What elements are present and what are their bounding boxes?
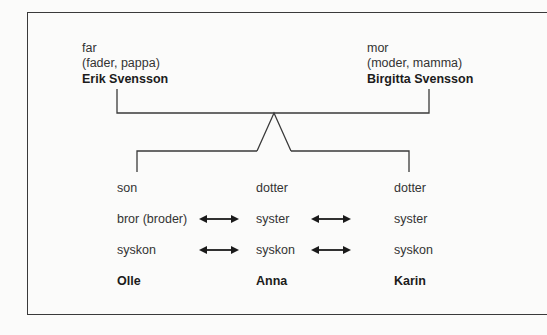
father-role: far	[82, 40, 97, 56]
mother-role: mor	[367, 40, 389, 56]
double-arrow-icon-4	[311, 246, 351, 254]
children-bracket	[137, 151, 257, 172]
children-bracket-right	[291, 151, 409, 172]
descent-connector	[257, 113, 291, 151]
child-1-collective: syskon	[117, 242, 156, 258]
child-2-collective: syskon	[256, 242, 295, 258]
child-2-sibling-term: syster	[256, 211, 289, 227]
child-1-name: Olle	[117, 273, 141, 289]
child-3-sibling-term: syster	[394, 211, 427, 227]
child-2-role: dotter	[256, 180, 288, 196]
child-3-role: dotter	[394, 180, 426, 196]
child-1-sibling-term: bror (broder)	[117, 211, 187, 227]
child-1-role: son	[117, 180, 137, 196]
parent-bracket	[117, 89, 429, 113]
mother-synonyms: (moder, mamma)	[367, 55, 462, 71]
double-arrow-icon-2	[311, 215, 351, 223]
mother-name: Birgitta Svensson	[367, 71, 473, 87]
double-arrow-icon-1	[199, 215, 239, 223]
double-arrow-icon-3	[199, 246, 239, 254]
child-3-name: Karin	[394, 273, 426, 289]
father-synonyms: (fader, pappa)	[82, 55, 160, 71]
child-2-name: Anna	[256, 273, 287, 289]
child-3-collective: syskon	[394, 242, 433, 258]
father-name: Erik Svensson	[82, 71, 168, 87]
